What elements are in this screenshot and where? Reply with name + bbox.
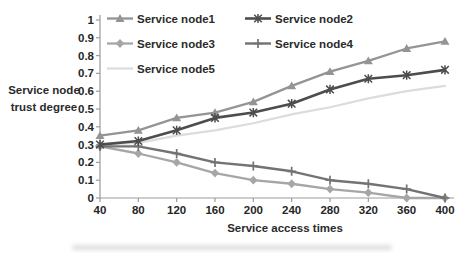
diamond-marker-icon <box>106 37 134 50</box>
series-line-service-node3 <box>100 146 445 198</box>
chart-figure: Service node trust degree Service access… <box>0 0 463 253</box>
series-line-service-node2 <box>100 70 445 145</box>
y-tick-label: 0.2 <box>60 156 94 168</box>
x-tick-label: 200 <box>236 204 270 216</box>
x-tick-label: 280 <box>313 204 347 216</box>
y-tick-label: 1 <box>60 14 94 26</box>
none <box>106 62 134 75</box>
legend-item-service-node4: Service node4 <box>244 37 353 50</box>
y-tick-label: 0.1 <box>60 174 94 186</box>
x-tick-label: 320 <box>351 204 385 216</box>
plus-marker-icon <box>244 37 272 50</box>
legend-item-service-node3: Service node3 <box>106 37 215 50</box>
series-line-service-node1 <box>100 41 445 135</box>
y-tick-label: 0.3 <box>60 139 94 151</box>
x-tick-label: 160 <box>198 204 232 216</box>
legend-label: Service node2 <box>275 13 353 25</box>
y-tick-label: 0.8 <box>60 50 94 62</box>
legend-item-service-node5: Service node5 <box>106 62 215 75</box>
legend-label: Service node5 <box>137 63 215 75</box>
x-tick-label: 360 <box>390 204 424 216</box>
x-tick-label: 400 <box>428 204 462 216</box>
y-tick-label: 0.4 <box>60 121 94 133</box>
y-tick-label: 0.9 <box>60 32 94 44</box>
legend-item-service-node2: Service node2 <box>244 12 353 25</box>
legend-label: Service node1 <box>137 13 215 25</box>
legend-item-service-node1: Service node1 <box>106 12 215 25</box>
x-tick-label: 240 <box>275 204 309 216</box>
legend-label: Service node3 <box>137 38 215 50</box>
x-tick-label: 120 <box>160 204 194 216</box>
x-tick-label: 40 <box>83 204 117 216</box>
triangle-marker-icon <box>106 12 134 25</box>
legend-label: Service node4 <box>275 38 353 50</box>
y-tick-label: 0.7 <box>60 67 94 79</box>
y-tick-label: 0 <box>60 192 94 204</box>
y-tick-label: 0.5 <box>60 103 94 115</box>
y-tick-label: 0.6 <box>60 85 94 97</box>
x-axis-title: Service access times <box>110 222 460 234</box>
x-tick-label: 80 <box>121 204 155 216</box>
cutoff-caption-artifact <box>72 245 392 250</box>
series-line-service-node4 <box>100 146 445 198</box>
asterisk-marker-icon <box>244 12 272 25</box>
